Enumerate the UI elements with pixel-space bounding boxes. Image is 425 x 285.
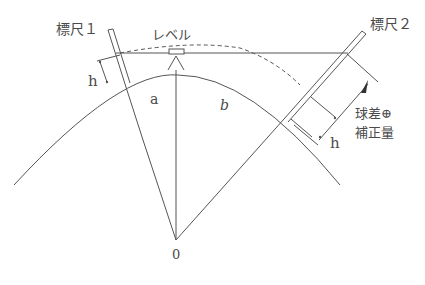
level-instrument-tripod	[168, 56, 184, 70]
staff-1-top	[108, 29, 113, 30]
earth-curvature-correction-diagram: 標尺１ 標尺２ レベル h a b 0 h 球差⊕ 補正量	[0, 0, 425, 285]
level-label: レベル	[152, 27, 191, 42]
h-left-arrow-top	[99, 61, 101, 63]
b-label: b	[220, 97, 229, 113]
h-right-label: h	[330, 134, 340, 152]
a-label: a	[150, 91, 158, 107]
h-right-leader	[294, 125, 318, 145]
correction-extension-top	[347, 54, 378, 82]
radius-left-upper	[125, 84, 143, 140]
h-left-label: h	[88, 72, 98, 90]
h-left-dimension	[100, 62, 107, 82]
correction-label-line1: 球差⊕	[355, 106, 392, 121]
h-left-arrow-bottom	[106, 81, 108, 83]
level-instrument-body	[169, 49, 184, 54]
staff-2-label: 標尺２	[370, 16, 412, 32]
correction-label-line2: 補正量	[355, 125, 394, 140]
correction-extension-mid	[311, 97, 335, 117]
radius-left	[143, 140, 176, 240]
staff-2-edge-a	[284, 31, 362, 119]
radius-right	[176, 119, 284, 240]
h-right-arrow-bottom	[319, 136, 321, 138]
level-surface-dashed-arc	[120, 45, 300, 85]
center-o-label: 0	[172, 247, 180, 262]
staff-2-top	[362, 31, 366, 34]
h-right-arrow-mid	[334, 117, 336, 119]
earth-surface-arc	[14, 75, 340, 185]
staff-1-label: 標尺１	[56, 21, 98, 37]
